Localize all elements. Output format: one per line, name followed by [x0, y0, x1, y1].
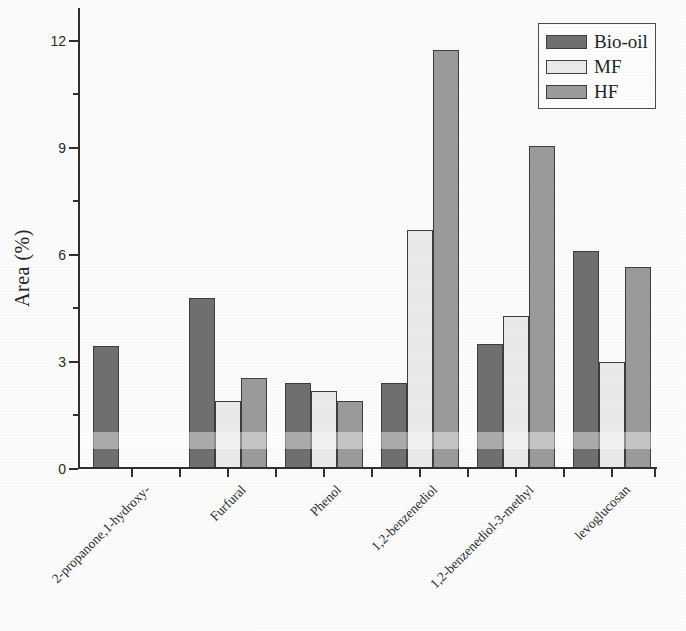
- bar-hf-2: [337, 401, 363, 469]
- y-axis-line: [78, 8, 80, 469]
- bar-bio-oil-5: [573, 251, 599, 469]
- scan-artifact-band: [78, 432, 657, 449]
- legend: Bio-oil MF HF: [538, 23, 656, 109]
- y-tick-label: 6: [20, 245, 66, 265]
- category-label: 2-propanone,1-hydroxy-: [48, 482, 153, 587]
- bar-bio-oil-0: [93, 346, 119, 469]
- x-major-tick: [419, 469, 421, 477]
- bar-bio-oil-2: [285, 383, 311, 469]
- bar-hf-3: [433, 50, 459, 469]
- x-major-tick: [515, 469, 517, 477]
- category-label: Phenol: [307, 482, 345, 520]
- x-major-tick: [323, 469, 325, 477]
- bar-hf-5: [625, 267, 651, 469]
- bar-mf-2: [311, 391, 337, 469]
- bar-hf-4: [529, 146, 555, 469]
- category-label: Furfural: [207, 482, 250, 525]
- legend-label-bio-oil: Bio-oil: [594, 32, 648, 51]
- bar-hf-1: [241, 378, 267, 469]
- bar-chart-figure: Area (%) 2-propanone,1-hydroxy-FurfuralP…: [0, 0, 686, 631]
- category-label: levoglucosan: [572, 482, 634, 544]
- x-minor-tick: [179, 469, 181, 477]
- legend-swatch-bio-oil: [546, 35, 587, 49]
- x-minor-tick: [654, 469, 656, 477]
- bar-bio-oil-4: [477, 344, 503, 469]
- legend-label-mf: MF: [594, 57, 621, 76]
- bar-mf-4: [503, 316, 529, 469]
- y-tick-label: 3: [20, 352, 66, 372]
- bar-mf-5: [599, 362, 625, 469]
- legend-label-hf: HF: [594, 82, 618, 101]
- y-major-tick: [69, 40, 78, 42]
- y-major-tick: [69, 147, 78, 149]
- x-minor-tick: [563, 469, 565, 477]
- bar-mf-1: [215, 401, 241, 469]
- x-minor-tick: [371, 469, 373, 477]
- x-minor-tick: [275, 469, 277, 477]
- x-minor-tick: [467, 469, 469, 477]
- x-major-tick: [227, 469, 229, 477]
- y-major-tick: [69, 468, 78, 470]
- category-label: 1,2-benzenediol-3-methyl: [427, 482, 537, 592]
- y-major-tick: [69, 254, 78, 256]
- legend-swatch-mf: [546, 60, 587, 74]
- y-major-tick: [69, 361, 78, 363]
- bar-bio-oil-3: [381, 383, 407, 469]
- category-label: 1,2-benzenediol: [369, 482, 442, 555]
- legend-item-hf: HF: [546, 79, 648, 104]
- y-tick-label: 12: [20, 31, 66, 51]
- y-tick-label: 9: [20, 138, 66, 158]
- y-axis-title: Area (%): [11, 229, 34, 307]
- legend-item-mf: MF: [546, 54, 648, 79]
- x-axis-line: [78, 467, 657, 469]
- x-major-tick: [611, 469, 613, 477]
- bar-mf-3: [407, 230, 433, 469]
- y-tick-label: 0: [20, 459, 66, 479]
- legend-item-bio-oil: Bio-oil: [546, 29, 648, 54]
- legend-swatch-hf: [546, 85, 587, 99]
- bar-bio-oil-1: [189, 298, 215, 469]
- x-major-tick: [131, 469, 133, 477]
